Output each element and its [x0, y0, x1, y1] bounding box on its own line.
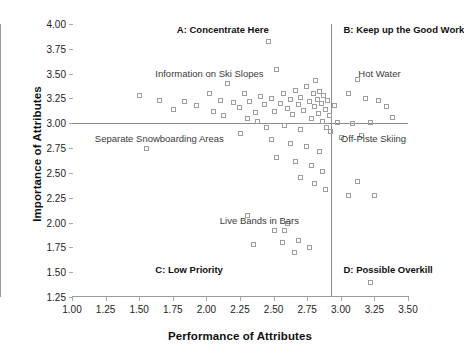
data-point: [290, 112, 295, 117]
x-tick-mark: [274, 297, 275, 301]
y-tick-mark: [69, 223, 73, 224]
data-point: [301, 108, 306, 113]
data-point: [266, 39, 271, 44]
data-point: [251, 242, 256, 247]
y-tick-label: 4.00: [47, 19, 66, 30]
y-tick-label: 2.00: [47, 217, 66, 228]
y-tick-mark: [69, 198, 73, 199]
data-point: [144, 146, 149, 151]
data-point: [346, 193, 351, 198]
data-point: [312, 104, 317, 109]
x-tick-label: 2.75: [297, 304, 316, 315]
plot-area: 1.251.501.752.002.252.502.753.003.253.50…: [72, 24, 408, 297]
quadrant-label-d: D: Possible Overkill: [343, 264, 432, 275]
y-tick-mark: [69, 148, 73, 149]
data-point: [335, 120, 340, 125]
data-point: [221, 113, 226, 118]
data-point: [269, 137, 274, 142]
data-point: [304, 144, 309, 149]
data-point: [225, 81, 230, 86]
x-axis-title: Performance of Attributes: [72, 330, 408, 342]
annotation-label: Off-Piste Skiing: [341, 133, 406, 144]
quadrant-label-b: B: Keep up the Good Work: [343, 24, 464, 35]
y-tick-label: 1.75: [47, 242, 66, 253]
data-point: [296, 238, 301, 243]
data-point: [157, 98, 162, 103]
annotation-label: Live Bands in Bars: [220, 215, 299, 226]
y-tick-mark: [69, 49, 73, 50]
data-point: [278, 101, 283, 106]
quadrant-label-c: C: Low Priority: [155, 264, 223, 275]
data-point: [355, 179, 360, 184]
data-point: [316, 111, 321, 116]
annotation-label: Hot Water: [358, 68, 400, 79]
data-point: [292, 250, 297, 255]
data-point: [272, 228, 277, 233]
y-tick-label: 2.50: [47, 167, 66, 178]
y-tick-label: 3.75: [47, 43, 66, 54]
x-tick-mark: [72, 297, 73, 301]
data-point: [363, 96, 368, 101]
data-point: [258, 94, 263, 99]
horizontal-divider-line: [72, 123, 408, 124]
data-point: [323, 187, 328, 192]
y-tick-label: 3.00: [47, 118, 66, 129]
y-tick-label: 2.75: [47, 143, 66, 154]
data-point: [350, 121, 355, 126]
y-tick-label: 3.50: [47, 68, 66, 79]
annotation-label: Information on Ski Slopes: [155, 68, 263, 79]
data-point: [320, 119, 325, 124]
x-tick-mark: [173, 297, 174, 301]
data-point: [320, 169, 325, 174]
annotation-label: Separate Snowboarding Areas: [95, 133, 224, 144]
data-point: [307, 245, 312, 250]
data-point: [372, 193, 377, 198]
data-point: [272, 109, 277, 114]
data-point: [325, 98, 330, 103]
y-tick-label: 1.25: [47, 292, 66, 303]
data-point: [238, 131, 243, 136]
data-point: [253, 110, 258, 115]
data-point: [346, 91, 351, 96]
data-point: [298, 175, 303, 180]
data-point: [390, 115, 395, 120]
data-point: [274, 67, 279, 72]
data-point: [255, 119, 260, 124]
data-point: [293, 159, 298, 164]
x-tick-label: 2.50: [264, 304, 283, 315]
data-point: [242, 91, 247, 96]
y-tick-mark: [69, 247, 73, 248]
data-point: [296, 102, 301, 107]
x-tick-mark: [307, 297, 308, 301]
data-point: [274, 155, 279, 160]
x-tick-label: 1.50: [129, 304, 148, 315]
y-tick-mark: [69, 24, 73, 25]
data-point: [264, 125, 269, 130]
data-point: [282, 228, 287, 233]
x-tick-label: 2.00: [197, 304, 216, 315]
data-point: [207, 91, 212, 96]
x-tick-label: 3.25: [365, 304, 384, 315]
x-tick-label: 1.00: [62, 304, 81, 315]
data-point: [293, 88, 298, 93]
x-tick-label: 1.75: [163, 304, 182, 315]
x-tick-mark: [408, 297, 409, 301]
data-point: [327, 113, 332, 118]
x-tick-label: 3.00: [331, 304, 350, 315]
data-point: [332, 103, 337, 108]
vertical-divider-line: [331, 24, 332, 297]
data-point: [182, 99, 187, 104]
data-point: [368, 280, 373, 285]
data-point: [313, 78, 318, 83]
x-tick-mark: [240, 297, 241, 301]
y-tick-mark: [69, 98, 73, 99]
data-point: [237, 105, 242, 110]
y-axis-line: [0, 24, 1, 297]
data-point: [384, 104, 389, 109]
y-axis-title: Importance of Attributes: [31, 44, 43, 264]
data-point: [317, 149, 322, 154]
data-point: [319, 101, 324, 106]
x-tick-mark: [106, 297, 107, 301]
data-point: [211, 109, 216, 114]
